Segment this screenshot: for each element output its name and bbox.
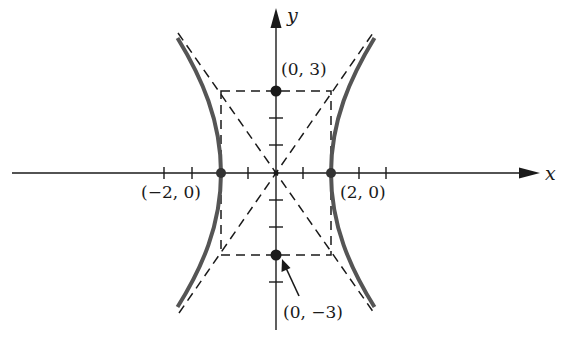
label-co-vertex-top: (0, 3) [281, 59, 327, 79]
x-axis-arrow-icon [519, 168, 540, 179]
y-axis-label: y [286, 4, 298, 26]
origin-point [274, 171, 279, 176]
pointer-line [286, 268, 299, 296]
label-vertex-left: (−2, 0) [141, 182, 201, 202]
hyperbola-diagram: y x (0, 3) (0, −3) (−2, 0) (2, 0) [0, 0, 569, 343]
point-vertex-left [216, 168, 226, 178]
pointer-arrow-icon [282, 259, 291, 272]
point-vertex-right [326, 168, 336, 178]
x-axis-label: x [545, 162, 556, 184]
point-co-vertex-bottom [271, 250, 282, 261]
label-co-vertex-bottom: (0, −3) [283, 302, 343, 322]
diagram-canvas: y x (0, 3) (0, −3) (−2, 0) (2, 0) [0, 0, 569, 343]
y-axis-arrow-icon [271, 8, 282, 28]
label-vertex-right: (2, 0) [340, 182, 386, 202]
point-co-vertex-top [271, 86, 282, 97]
